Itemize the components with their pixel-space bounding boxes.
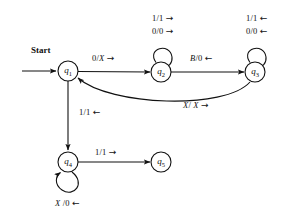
q4-q5-arrow-icon: → — [109, 147, 117, 157]
q3-loop-bot-arrow-icon: ← — [260, 26, 268, 36]
self-loop-q4 — [56, 172, 78, 192]
transition-label-q4-loop: X /0 ← — [55, 199, 80, 208]
state-label-q5: q5 — [157, 156, 165, 168]
transition-label-q4-q5: 1/1 → — [95, 148, 116, 157]
state-label-q2: q2 — [157, 66, 165, 78]
q1-q2-symbol: X — [99, 53, 104, 63]
q2-q3-post: /0 — [195, 53, 202, 63]
q4-loop-arrow-icon: ← — [72, 198, 80, 208]
q1-q2-pre: 0/ — [92, 53, 99, 63]
q1-q4-arrow-icon: ← — [93, 107, 101, 117]
transition-label-q2-loop-1: 1/1 → — [152, 14, 173, 23]
q3-loop-top-arrow-icon: ← — [260, 13, 268, 23]
start-label: Start — [31, 45, 51, 55]
q1-q2-arrow-icon: → — [107, 53, 115, 63]
q2-loop-top-arrow-icon: → — [166, 13, 174, 23]
state-diagram-canvas: Start q1 q2 q3 q4 q5 1/1 → 0/0 → 1/1 ← 0… — [0, 0, 293, 223]
q3-q1-symbol-write: X — [193, 100, 198, 110]
edge-q1-q2 — [78, 72, 150, 73]
state-label-q1: q1 — [64, 65, 72, 77]
q2-loop-top-text: 1/1 — [152, 13, 163, 23]
transition-label-q3-q1: X/ X → — [183, 101, 209, 110]
state-label-q3-sub: 3 — [256, 71, 259, 78]
q3-q1-arrow-icon: → — [201, 100, 209, 110]
q1-q4-text: 1/1 — [79, 107, 90, 117]
q2-loop-bot-text: 0/0 — [152, 26, 163, 36]
q2-q3-arrow-icon: ← — [205, 53, 213, 63]
transition-label-q3-loop-1: 1/1 ← — [246, 14, 267, 23]
transition-label-q1-q2: 0/X → — [92, 54, 114, 63]
transition-label-q3-loop-0: 0/0 ← — [246, 27, 267, 36]
transition-label-q1-q4: 1/1 ← — [79, 108, 100, 117]
state-label-q1-sub: 1 — [69, 70, 72, 77]
transition-label-q2-loop-0: 0/0 → — [152, 27, 173, 36]
transition-label-q2-q3: B/0 ← — [190, 54, 212, 63]
state-label-q4: q4 — [64, 156, 72, 168]
q3-loop-top-text: 1/1 — [246, 13, 257, 23]
q4-q5-text: 1/1 — [95, 147, 106, 157]
state-label-q2-sub: 2 — [162, 71, 165, 78]
state-label-q3: q3 — [251, 66, 259, 78]
q2-loop-bot-arrow-icon: → — [166, 26, 174, 36]
state-label-q5-sub: 5 — [162, 161, 165, 168]
q3-loop-bot-text: 0/0 — [246, 26, 257, 36]
state-label-q4-sub: 4 — [69, 161, 72, 168]
q4-loop-post: /0 — [60, 198, 69, 208]
